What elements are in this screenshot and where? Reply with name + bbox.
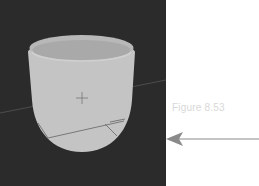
- viewport-scene: [0, 0, 166, 186]
- figure-caption: Figure 8.53: [172, 102, 225, 113]
- 3d-viewport[interactable]: [0, 0, 166, 186]
- cup-inner: [33, 40, 131, 60]
- arrow-left-icon: [166, 128, 259, 148]
